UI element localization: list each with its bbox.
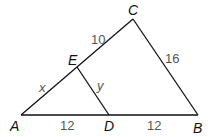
triangle-diagram: C E A D B 10 16 x y 12 12: [0, 0, 213, 137]
point-label-a: A: [9, 118, 19, 134]
segment-label-cb: 16: [165, 51, 179, 66]
segment-label-ae: x: [38, 80, 46, 95]
point-label-d: D: [104, 118, 114, 134]
point-label-b: B: [193, 120, 202, 136]
segment-cb: [133, 19, 198, 115]
segment-ed: [77, 67, 109, 115]
segment-label-ce: 10: [91, 32, 105, 47]
point-label-e: E: [68, 52, 78, 68]
segment-label-db: 12: [147, 118, 161, 133]
segment-label-ad: 12: [60, 118, 74, 133]
segment-label-ed: y: [96, 78, 105, 93]
point-label-c: C: [128, 2, 139, 18]
